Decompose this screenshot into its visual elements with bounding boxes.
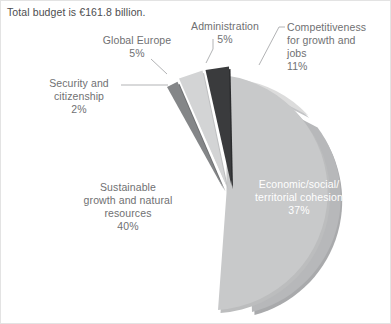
slice-label-cohesion: Economic/social/ territorial cohesion 37… — [244, 178, 354, 217]
slice-label-sustainable: Sustainable growth and natural resources… — [61, 181, 195, 233]
pie-chart-figure: Total budget is €161.8 billion. — [0, 0, 391, 324]
slice-label-administration: Administration 5% — [177, 20, 273, 46]
leader-line-global-europe — [151, 59, 167, 74]
slice-label-global-europe: Global Europe 5% — [85, 34, 189, 60]
slice-label-competitiveness: Competitiveness for growth and jobs 11% — [287, 21, 391, 73]
slice-label-security: Security and citizenship 2% — [29, 77, 129, 116]
